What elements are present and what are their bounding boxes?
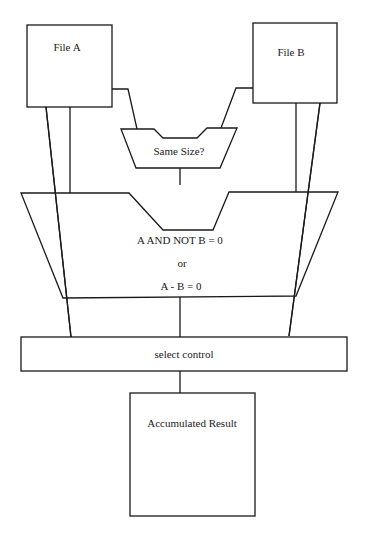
same-size-label: Same Size? [153, 145, 204, 157]
same-size-node: Same Size? [121, 128, 237, 168]
file-b-label: File B [277, 46, 304, 58]
select-control-node: select control [21, 337, 347, 371]
diagram-canvas: File A File B Same Size? A AND NOT B = 0… [0, 0, 366, 540]
accumulated-result-node: Accumulated Result [130, 393, 255, 516]
edge-filea-samesize [112, 89, 137, 129]
accumulated-result-label: Accumulated Result [147, 417, 237, 429]
select-control-label: select control [155, 348, 214, 360]
file-a-label: File A [53, 41, 80, 53]
file-b-node: File B [253, 23, 337, 103]
comparator-line3: A - B = 0 [160, 280, 202, 292]
file-a-node: File A [27, 25, 112, 107]
edge-fileb-samesize [221, 88, 253, 128]
comparator-node: A AND NOT B = 0 or A - B = 0 [21, 192, 338, 298]
comparator-line1: A AND NOT B = 0 [137, 234, 223, 246]
comparator-line2: or [177, 257, 187, 269]
